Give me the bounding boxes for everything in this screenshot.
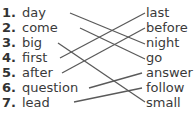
connector-lead-follow [74,88,142,102]
connector-question-answer [89,73,142,88]
connector-lines [0,0,196,114]
